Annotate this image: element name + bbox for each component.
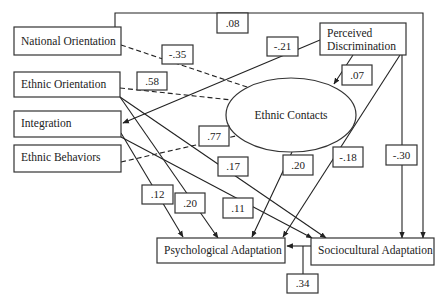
svg-text:.11: .11 — [231, 202, 244, 214]
node-ethnic-contacts: Ethnic Contacts — [226, 78, 356, 152]
coef-discrimination-to-psychological: -.18 — [333, 147, 363, 167]
node-label: National Orientation — [21, 35, 116, 47]
node-integration: Integration — [14, 111, 121, 137]
node-label: Sociocultural Adaptation — [318, 244, 433, 257]
svg-text:.58: .58 — [145, 75, 159, 87]
coef-discrimination-to-sociocultural: -.30 — [386, 145, 417, 165]
node-label: Ethnic Orientation — [21, 78, 107, 90]
svg-text:.20: .20 — [291, 159, 305, 171]
coef-sociocultural-to-psychological: .34 — [287, 274, 318, 293]
node-label: Ethnic Contacts — [254, 109, 328, 121]
coef-ethnic-orientation-to-ethnic-contacts: .58 — [137, 72, 167, 90]
svg-text:.12: .12 — [151, 188, 165, 200]
node-label: Integration — [21, 117, 72, 130]
coef-national-to-ethnic-contacts: -.35 — [162, 45, 193, 64]
node-ethnic-behaviors: Ethnic Behaviors — [14, 145, 121, 172]
coef-discrimination-to-integration: -.21 — [267, 37, 298, 56]
coef-national-to-sociocultural: .08 — [217, 13, 248, 33]
path-model-diagram: National Orientation Ethnic Orientation … — [0, 0, 447, 303]
coef-ethnic-orientation-to-sociocultural: .17 — [218, 157, 248, 176]
coef-ethnic-contacts-to-psychological: .20 — [283, 155, 313, 175]
svg-text:.20: .20 — [183, 197, 197, 209]
node-label: Ethnic Behaviors — [21, 151, 101, 163]
svg-text:-.30: -.30 — [393, 149, 411, 161]
node-national-orientation: National Orientation — [14, 27, 121, 55]
node-psychological-adaptation: Psychological Adaptation — [157, 238, 285, 263]
node-label: Psychological Adaptation — [164, 244, 282, 257]
coef-integration-to-sociocultural: .11 — [223, 198, 253, 218]
svg-text:.07: .07 — [350, 69, 364, 81]
coef-ethnic-orientation-to-psychological: .20 — [175, 193, 205, 213]
svg-text:.08: .08 — [226, 17, 240, 29]
coef-ethnic-behaviors-to-ethnic-contacts: .77 — [199, 126, 229, 146]
svg-text:.17: .17 — [226, 160, 240, 172]
node-label-line1: Perceived — [327, 27, 373, 39]
svg-text:.77: .77 — [207, 130, 221, 142]
coef-discrimination-to-ethnic-contacts: .07 — [342, 65, 372, 85]
edge-ethnic-orientation-to-psychological — [120, 97, 218, 238]
coef-integration-to-psychological: .12 — [142, 185, 173, 204]
node-sociocultural-adaptation: Sociocultural Adaptation — [311, 238, 434, 265]
svg-text:-.21: -.21 — [274, 40, 291, 52]
svg-text:-.35: -.35 — [169, 48, 187, 60]
node-ethnic-orientation: Ethnic Orientation — [14, 72, 120, 97]
node-label-line2: Discrimination — [327, 40, 396, 52]
svg-text:.34: .34 — [296, 277, 310, 289]
svg-text:-.18: -.18 — [339, 151, 357, 163]
node-perceived-discrimination: Perceived Discrimination — [320, 23, 406, 55]
